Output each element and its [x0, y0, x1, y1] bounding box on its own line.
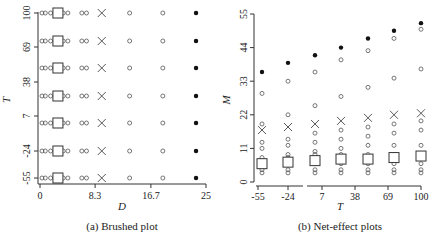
filled-circle-marker	[194, 121, 198, 125]
filled-circle-marker	[313, 53, 317, 57]
open-circle-marker	[128, 94, 132, 98]
x-marker	[284, 123, 292, 131]
x-tick-label: 0	[38, 190, 43, 201]
y-tick-label: 69	[21, 42, 32, 52]
open-circle-marker	[339, 146, 343, 150]
open-circle-marker	[49, 39, 53, 43]
open-circle-marker	[66, 149, 70, 153]
open-circle-marker	[161, 11, 165, 15]
filled-circle-marker	[419, 21, 423, 25]
x-tick-label: 8.3	[89, 190, 102, 201]
open-circle-marker	[128, 66, 132, 70]
square-marker	[336, 154, 346, 164]
open-circle-marker	[66, 94, 70, 98]
square-marker	[310, 156, 320, 166]
open-circle-marker	[313, 70, 317, 74]
y-tick-label: 0	[238, 180, 249, 185]
brushed-plot: -55-2473869100 08.316.725 D T (a) Brushe…	[0, 6, 211, 234]
y-tick-label: 44	[238, 43, 249, 53]
data-points	[40, 8, 198, 183]
open-circle-marker	[128, 11, 132, 15]
x-ticks: 08.316.725	[38, 184, 212, 201]
square-marker	[53, 36, 63, 46]
data-points	[257, 21, 426, 175]
open-circle-marker	[392, 122, 396, 126]
filled-circle-marker	[366, 36, 370, 40]
square-marker	[53, 91, 63, 101]
y-tick-label: -55	[21, 171, 32, 184]
open-circle-marker	[366, 85, 370, 89]
open-circle-marker	[66, 66, 70, 70]
open-circle-marker	[80, 39, 84, 43]
open-circle-marker	[313, 140, 317, 144]
x-marker	[98, 64, 106, 72]
x-tick-label: 25	[201, 190, 211, 201]
open-circle-marker	[419, 162, 423, 166]
x-marker	[98, 92, 106, 100]
open-circle-marker	[366, 125, 370, 129]
open-circle-marker	[80, 121, 84, 125]
open-circle-marker	[80, 11, 84, 15]
x-marker	[337, 117, 345, 125]
open-circle-marker	[260, 140, 264, 144]
y-tick-label: 22	[238, 110, 249, 120]
open-circle-marker	[339, 94, 343, 98]
open-circle-marker	[80, 176, 84, 180]
figure: -55-2473869100 08.316.725 D T (a) Brushe…	[0, 0, 435, 238]
square-marker	[53, 8, 63, 18]
open-circle-marker	[84, 94, 88, 98]
open-circle-marker	[419, 27, 423, 31]
filled-circle-marker	[194, 11, 198, 15]
x-marker	[98, 119, 106, 127]
open-circle-marker	[260, 91, 264, 95]
y-tick-label: 11	[238, 144, 249, 154]
filled-circle-marker	[286, 61, 290, 65]
x-tick-label: 100	[414, 191, 429, 202]
y-axis-label: M	[220, 95, 232, 106]
data-row	[40, 118, 198, 128]
open-circle-marker	[128, 121, 132, 125]
open-circle-marker	[392, 36, 396, 40]
filled-circle-marker	[194, 94, 198, 98]
square-marker	[283, 157, 293, 167]
open-circle-marker	[419, 143, 423, 147]
y-tick-label: 100	[21, 6, 32, 21]
open-circle-marker	[66, 39, 70, 43]
data-column	[416, 21, 426, 175]
x-tick-label: 7	[320, 191, 325, 202]
open-circle-marker	[286, 113, 290, 117]
open-circle-marker	[339, 128, 343, 132]
filled-circle-marker	[339, 45, 343, 49]
open-circle-marker	[49, 149, 53, 153]
data-column	[257, 70, 267, 175]
open-circle-marker	[66, 176, 70, 180]
x-tick-label: -24	[281, 191, 294, 202]
square-marker	[53, 118, 63, 128]
filled-circle-marker	[260, 70, 264, 74]
y-ticks: 01122334455	[238, 9, 254, 185]
data-column	[389, 29, 399, 175]
open-circle-marker	[49, 94, 53, 98]
square-marker	[416, 151, 426, 161]
open-circle-marker	[419, 67, 423, 71]
open-circle-marker	[260, 146, 264, 150]
open-circle-marker	[161, 149, 165, 153]
open-circle-marker	[84, 39, 88, 43]
open-circle-marker	[419, 119, 423, 123]
y-axis-label: T	[0, 96, 12, 103]
open-circle-marker	[419, 128, 423, 132]
open-circle-marker	[313, 131, 317, 135]
x-tick-label: 38	[350, 191, 360, 202]
open-circle-marker	[128, 39, 132, 43]
x-marker	[417, 109, 425, 117]
open-circle-marker	[80, 149, 84, 153]
y-tick-label: 7	[21, 114, 32, 119]
open-circle-marker	[260, 122, 264, 126]
y-ticks: -55-2473869100	[21, 6, 38, 185]
open-circle-marker	[49, 11, 53, 15]
caption: (b) Net-effect plots	[298, 220, 382, 233]
square-marker	[363, 154, 373, 164]
x-marker	[258, 126, 266, 134]
open-circle-marker	[49, 121, 53, 125]
data-row	[40, 146, 198, 156]
